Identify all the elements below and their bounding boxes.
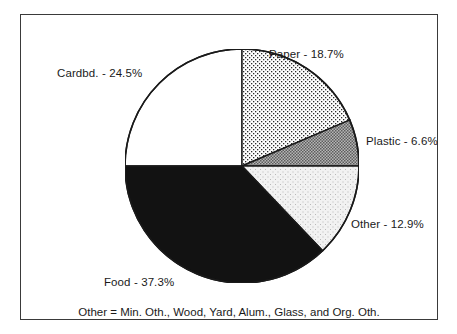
pie-label-paper: Paper - 18.7% — [269, 48, 344, 60]
pie-chart — [125, 49, 359, 283]
pie-label-plastic: Plastic - 6.6% — [366, 135, 438, 147]
pie-label-cardbd: Cardbd. - 24.5% — [57, 67, 142, 79]
pie-chart-figure: Paper - 18.7% Cardbd. - 24.5% Plastic - … — [0, 0, 457, 334]
pie-slice-cardbd — [125, 49, 242, 166]
pie-chart-svg — [125, 49, 359, 283]
pie-label-other: Other - 12.9% — [351, 218, 424, 230]
pie-label-food: Food - 37.3% — [104, 276, 174, 288]
figure-frame: Paper - 18.7% Cardbd. - 24.5% Plastic - … — [20, 14, 438, 320]
figure-footnote: Other = Min. Oth., Wood, Yard, Alum., Gl… — [21, 306, 437, 318]
